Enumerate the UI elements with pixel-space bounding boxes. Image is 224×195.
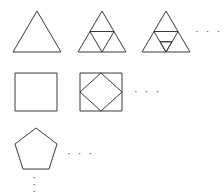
vertical-ellipsis: · · · (29, 174, 39, 195)
vertical-ellipsis-dot-3: · (29, 188, 39, 195)
square-outline (80, 73, 122, 111)
triangle-row-ellipsis: · · · (195, 26, 222, 37)
square-iteration-1 (79, 72, 123, 112)
square-iteration-0 (14, 72, 58, 112)
pentagon-iteration-0 (13, 127, 59, 171)
square-row-ellipsis: · · · (134, 86, 161, 97)
triangle-iteration-0 (12, 10, 62, 54)
pentagon-row: · · · (0, 118, 224, 170)
triangle-iteration-2 (141, 10, 191, 54)
triangle-iteration-1 (77, 10, 127, 54)
figure-canvas: · · · · · · · · · · (0, 0, 224, 195)
pentagon-row-ellipsis: · · · (67, 148, 94, 159)
triangle-row: · · · (0, 0, 224, 62)
triangle-inner-inverted (90, 32, 114, 53)
square-outline (15, 73, 57, 111)
square-inscribed-diamond (80, 73, 122, 111)
triangle-inner-inverted-level2 (160, 42, 172, 52)
triangle-outline (13, 11, 61, 52)
square-row: · · · (0, 62, 224, 118)
pentagon-outline (15, 128, 57, 169)
